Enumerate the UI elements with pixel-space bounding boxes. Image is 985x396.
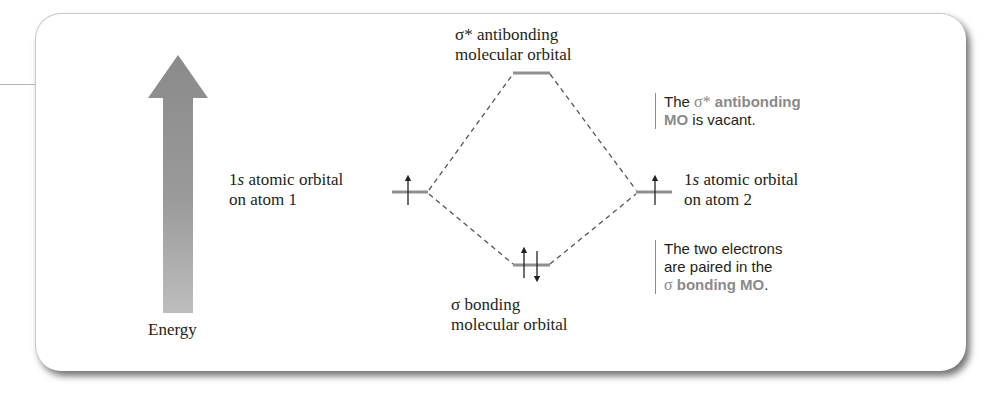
sigma-symbol: σ (451, 295, 460, 314)
orbital-levels (392, 73, 672, 265)
antibonding-note: The σ* antibonding MO is vacant. (655, 93, 801, 129)
bonding-note: The two electrons are paired in the σ bo… (655, 240, 782, 294)
bonding-label: σ bonding molecular orbital (451, 295, 568, 335)
antibonding-label-line2: molecular orbital (455, 45, 572, 65)
note-bold: MO (664, 111, 688, 128)
atom1-prefix: 1 (229, 170, 238, 189)
sigma-star-symbol: σ* (455, 25, 473, 44)
atom1-line1: atomic orbital (244, 170, 343, 189)
antibonding-label-line1: antibonding (473, 25, 558, 44)
energy-arrow-icon (148, 55, 208, 313)
atom2-label: 1s atomic orbital on atom 2 (684, 170, 798, 210)
atom2-line2: on atom 2 (684, 190, 798, 210)
note-line2: are paired in the (664, 258, 782, 276)
note-line1: The two electrons (664, 240, 782, 258)
note-sigma: σ (664, 276, 673, 293)
antibonding-label: σ* antibonding molecular orbital (455, 25, 572, 65)
note-text: The (664, 93, 694, 110)
atom2-prefix: 1 (684, 170, 693, 189)
correlation-lines (429, 74, 636, 264)
atom1-line2: on atom 1 (229, 190, 343, 210)
bonding-label-line2: molecular orbital (451, 315, 568, 335)
note-sigma-star: σ* (694, 93, 711, 110)
bonding-label-line1: bonding (460, 295, 520, 314)
note-bold: antibonding (711, 93, 801, 110)
energy-axis-label: Energy (148, 320, 197, 340)
note-text: is vacant. (688, 111, 756, 128)
note-bold: bonding MO (673, 276, 765, 293)
atom2-line1: atomic orbital (699, 170, 798, 189)
note-text: . (764, 276, 768, 293)
atom1-label: 1s atomic orbital on atom 1 (229, 170, 343, 210)
